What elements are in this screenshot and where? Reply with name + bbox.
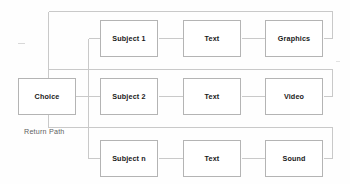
node-video-label: Video [284,93,304,100]
node-text-3-label: Text [205,155,220,162]
node-subject-1-label: Subject 1 [112,35,145,42]
node-text-3[interactable]: Text [183,140,241,177]
node-subject-n-label: Subject n [112,155,146,162]
node-choice[interactable]: Choice [18,78,76,115]
scan-artifact [336,61,340,62]
node-sound-label: Sound [282,155,305,162]
node-graphics-label: Graphics [278,35,310,42]
node-text-1[interactable]: Text [183,20,241,57]
node-graphics[interactable]: Graphics [265,20,323,57]
diagram-canvas: Choice Subject 1 Text Graphics Subject 2… [0,0,350,184]
node-sound[interactable]: Sound [265,140,323,177]
node-video[interactable]: Video [265,78,323,115]
node-text-2[interactable]: Text [183,78,241,115]
node-text-2-label: Text [205,93,220,100]
node-subject-n[interactable]: Subject n [100,140,158,177]
node-subject-2[interactable]: Subject 2 [100,78,158,115]
node-text-1-label: Text [205,35,220,42]
return-path-label: Return Path [24,128,65,135]
node-choice-label: Choice [35,93,60,100]
node-subject-2-label: Subject 2 [112,93,145,100]
scan-artifact [18,43,25,44]
node-subject-1[interactable]: Subject 1 [100,20,158,57]
